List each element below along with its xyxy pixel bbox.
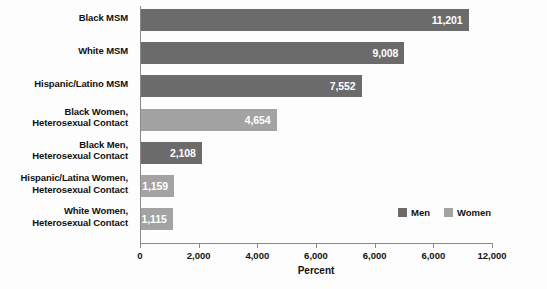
bar: 2,108 [140,142,202,164]
bar: 11,201 [140,9,469,31]
bar-value-label: 7,552 [330,80,356,92]
category-label-line: Heterosexual Contact [0,184,128,196]
legend-item: Men [398,207,430,218]
x-axis-tick-label: 4,000 [245,250,269,261]
category-label: Hispanic/Latino MSM [0,78,128,90]
bar-chart: Black MSMWhite MSMHispanic/Latino MSMBla… [0,0,547,289]
x-axis-tick-label: 6,000 [304,250,328,261]
x-axis-tick [492,243,493,248]
category-axis-labels: Black MSMWhite MSMHispanic/Latino MSMBla… [0,6,134,238]
x-axis-title: Percent [140,265,492,276]
category-label-line: Black Men, [79,139,128,150]
bar: 1,115 [140,208,173,230]
bar: 7,552 [140,75,362,97]
category-label-line: Heterosexual Contact [0,217,128,229]
category-label: White Women,Heterosexual Contact [0,205,128,228]
x-axis-tick [257,243,258,248]
x-axis-tick [433,243,434,248]
x-axis-tick-label: 12,000 [477,250,506,261]
category-label-line: Heterosexual Contact [0,117,128,129]
x-axis-tick-label: 0 [137,250,142,261]
category-label-line: Heterosexual Contact [0,150,128,162]
x-axis-tick-label: 2,000 [187,250,211,261]
legend-label: Men [411,207,430,218]
bar: 9,008 [140,42,404,64]
legend-item: Women [444,207,491,218]
bar-value-label: 2,108 [170,147,196,159]
bar: 4,654 [140,109,277,131]
x-axis-tick-label: 6,000 [363,250,387,261]
category-label-line: White Women, [64,205,128,216]
bar-value-label: 1,115 [142,213,167,225]
legend-label: Women [457,207,491,218]
category-label: Hispanic/Latina Women,Heterosexual Conta… [0,172,128,195]
y-axis-line [140,6,141,243]
category-label-line: Hispanic/Latino MSM [34,78,128,89]
x-axis-tick [375,243,376,248]
chart-legend: MenWomen [398,207,491,218]
category-label-line: Hispanic/Latina Women, [21,172,128,183]
bar-value-label: 1,159 [142,180,168,192]
bar: 1,159 [140,175,174,197]
x-axis-tick [199,243,200,248]
x-axis-tick [140,243,141,248]
x-axis-tick-label: 6,000 [421,250,445,261]
legend-swatch-icon [444,208,453,217]
bar-value-label: 9,008 [372,47,398,59]
category-label: Black MSM [0,12,128,24]
category-label: White MSM [0,45,128,57]
plot-area: 11,2019,0087,5524,6542,1081,1591,115 [140,6,492,238]
x-axis-tick [316,243,317,248]
category-label-line: Black MSM [79,12,128,23]
category-label-line: White MSM [78,45,128,56]
bar-value-label: 11,201 [432,14,463,26]
category-label: Black Women,Heterosexual Contact [0,106,128,129]
bar-value-label: 4,654 [245,114,271,126]
category-label-line: Black Women, [64,106,128,117]
category-label: Black Men,Heterosexual Contact [0,139,128,162]
legend-swatch-icon [398,208,407,217]
